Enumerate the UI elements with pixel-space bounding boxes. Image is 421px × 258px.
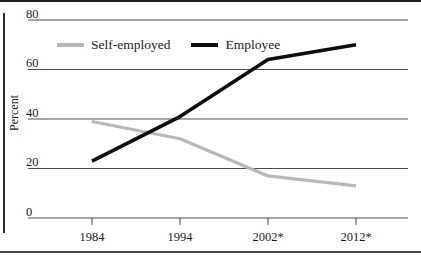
legend-label-employee: Employee: [225, 38, 280, 52]
y-tick-label: 0: [26, 205, 32, 219]
employee-line-swatch: [191, 43, 218, 47]
y-tick-label: 60: [26, 56, 39, 70]
x-tick-label: 2012*: [340, 230, 371, 244]
series-line-employee: [92, 45, 356, 161]
chart-legend: Self-employed Employee: [57, 38, 280, 52]
y-tick-label: 40: [26, 106, 39, 120]
legend-item-self-employed: Self-employed: [57, 38, 170, 52]
self-employed-line-swatch: [57, 43, 84, 47]
series-line-self-employed: [92, 121, 356, 185]
figure-container: Percent 020406080198419942002*2012* Self…: [0, 0, 421, 258]
legend-label-self-employed: Self-employed: [91, 38, 170, 52]
legend-item-employee: Employee: [191, 38, 280, 52]
y-tick-label: 20: [26, 155, 39, 169]
y-tick-label: 80: [26, 7, 39, 21]
x-tick-label: 1984: [80, 230, 106, 244]
x-tick-label: 1994: [168, 230, 194, 244]
x-tick-label: 2002*: [252, 230, 283, 244]
